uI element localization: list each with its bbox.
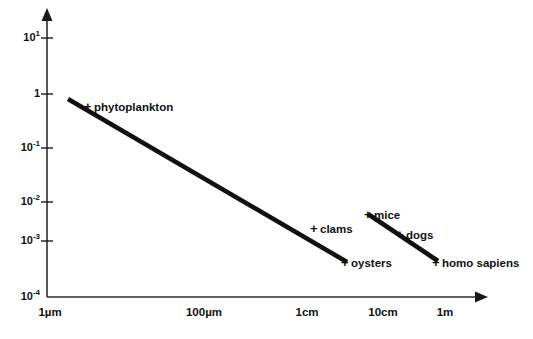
y-tick-label-10e-4: 10-4 (8, 291, 40, 302)
x-tick-label-1m: 1m (418, 307, 472, 319)
y-tick-label-10e-1: 10-1 (8, 142, 40, 153)
y-tick-exponent: -4 (33, 288, 40, 297)
y-tick-label-10e-2: 10-2 (8, 196, 40, 207)
y-tick-exponent: -2 (33, 193, 40, 202)
plot-svg (0, 0, 533, 339)
x-tick-label-1cm: 1cm (277, 307, 337, 319)
y-tick-base: 10 (21, 234, 33, 246)
data-point-label-phytoplankton: phytoplankton (94, 102, 173, 114)
y-tick-base: 1 (34, 87, 40, 99)
y-tick-label-10e-3: 10-3 (8, 235, 40, 246)
x-tick-label-1um: 1µm (20, 307, 80, 319)
y-axis-arrow-icon (42, 8, 53, 21)
y-tick-label-10e1: 101 (8, 32, 40, 43)
x-tick-label-100um: 100µm (169, 307, 239, 319)
data-point-label-mice: mice (374, 210, 400, 222)
data-point-marker-dogs: + (396, 228, 404, 241)
data-point-marker-mice: + (364, 208, 372, 221)
data-point-marker-phytoplankton: + (84, 100, 92, 113)
data-point-marker-clams: + (310, 222, 318, 235)
y-tick-exponent: -1 (33, 139, 40, 148)
y-tick-base: 10 (21, 141, 33, 153)
data-point-label-oysters: oysters (351, 258, 392, 270)
data-point-label-dogs: dogs (406, 230, 433, 242)
y-tick-base: 10 (21, 195, 33, 207)
data-point-label-homo-sapiens: homo sapiens (442, 258, 519, 270)
x-tick-label-10cm: 10cm (353, 307, 413, 319)
x-axis-arrow-icon (475, 292, 488, 303)
data-point-marker-oysters: + (341, 256, 349, 269)
chart-canvas: 101 1 10-1 10-2 10-3 10-4 1µm 100µm 1cm … (0, 0, 533, 339)
y-tick-base: 10 (23, 31, 35, 43)
y-tick-exponent: 1 (36, 29, 40, 38)
y-tick-label-1: 1 (8, 88, 40, 99)
y-tick-exponent: -3 (33, 232, 40, 241)
y-tick-base: 10 (21, 290, 33, 302)
data-point-label-clams: clams (320, 224, 353, 236)
series-line-invertebrates (68, 99, 347, 262)
data-point-marker-homo-sapiens: + (432, 256, 440, 269)
